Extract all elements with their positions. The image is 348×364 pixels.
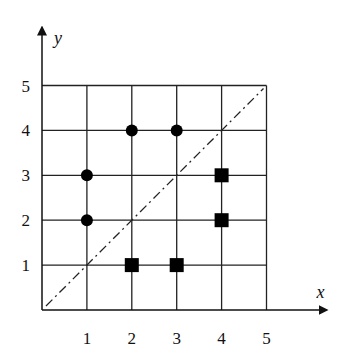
diagonal-reference-line: [46, 89, 264, 307]
data-points: [81, 124, 229, 272]
square-point: [125, 258, 139, 272]
y-tick-label: 3: [22, 166, 31, 185]
y-tick-label: 1: [22, 256, 31, 275]
y-tick-label: 5: [22, 77, 31, 96]
x-tick-label: 1: [83, 329, 92, 348]
x-tick-label: 4: [217, 329, 226, 348]
circle-point: [126, 124, 138, 136]
square-point: [215, 168, 229, 182]
square-point: [215, 213, 229, 227]
x-tick-label: 3: [172, 329, 181, 348]
scatter-chart: 12345 12345 x y: [0, 0, 348, 364]
x-axis-label: x: [316, 282, 325, 302]
square-point: [170, 258, 184, 272]
x-tick-label: 5: [262, 329, 271, 348]
circle-point: [171, 124, 183, 136]
circle-point: [81, 214, 93, 226]
y-axis-label: y: [52, 28, 62, 48]
y-tick-label: 2: [22, 211, 31, 230]
y-tick-label: 4: [22, 121, 31, 140]
circle-point: [81, 169, 93, 181]
x-tick-label: 2: [128, 329, 137, 348]
x-tick-labels: 12345: [83, 329, 271, 348]
y-tick-labels: 12345: [22, 77, 31, 276]
